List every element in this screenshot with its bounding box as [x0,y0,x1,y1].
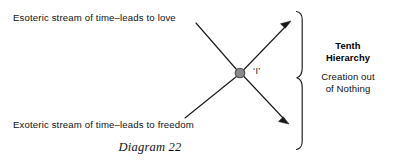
right-curly-brace [297,12,303,150]
creation-line-2: of Nothing [306,83,390,95]
exoteric-stream-label: Exoteric stream of time–leads to freedom [13,119,194,131]
exoteric-stream-line [185,77,237,119]
lower-right-arrow-shaft [244,77,284,120]
upper-right-arrowhead [281,21,292,28]
center-node-label: ‘I’ [253,65,261,77]
diagram-canvas: Esoteric stream of time–leads to love Ex… [0,0,393,164]
esoteric-stream-line [196,23,237,70]
center-node-circle [235,68,245,78]
diagram-caption: Diagram 22 [0,140,300,155]
tenth-hierarchy-title: Tenth Hierarchy [306,40,390,63]
upper-right-arrow-shaft [244,26,286,70]
creation-out-of-nothing-subtitle: Creation out of Nothing [306,71,390,95]
tenth-hierarchy-line-2: Hierarchy [306,52,390,64]
bracket-annotation-group: Tenth Hierarchy Creation out of Nothing [306,40,390,95]
lower-right-arrowhead [279,117,290,124]
esoteric-stream-label: Esoteric stream of time–leads to love [13,12,176,24]
creation-line-1: Creation out [306,71,390,83]
tenth-hierarchy-line-1: Tenth [306,40,390,52]
